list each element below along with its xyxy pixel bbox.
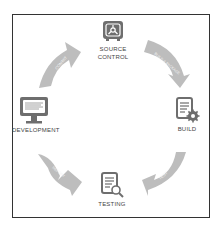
- node-testing: TESTING: [92, 172, 132, 208]
- node-label: BUILD: [170, 125, 204, 133]
- arrow-test: TEST: [140, 150, 192, 198]
- arrow-report: REPORT: [34, 150, 86, 198]
- node-build: BUILD: [170, 97, 204, 133]
- monitor-icon: [19, 96, 49, 124]
- arrow-build-package: BUILD & PACKAGE: [140, 38, 190, 90]
- vault-icon: [102, 20, 124, 42]
- node-label: TESTING: [92, 200, 132, 208]
- node-label: SOURCE: [92, 45, 134, 53]
- node-label: DEVELOPMENT: [12, 126, 56, 134]
- document-gear-icon: [174, 97, 200, 123]
- node-development: DEVELOPMENT: [12, 96, 56, 134]
- node-label: CONTROL: [92, 53, 134, 61]
- arrow-commit: COMMIT: [35, 40, 85, 90]
- node-source-control: SOURCE CONTROL: [92, 20, 134, 61]
- document-magnifier-icon: [100, 172, 124, 198]
